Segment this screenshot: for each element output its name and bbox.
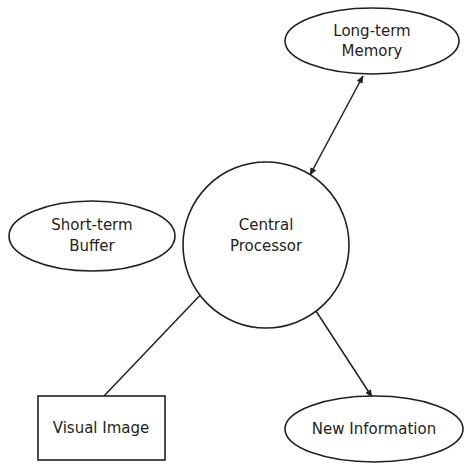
edge-processor-newinfo	[316, 311, 372, 397]
long-term-memory-ellipse	[285, 8, 459, 74]
diagram-canvas: Long-term Memory Short-term Buffer Centr…	[0, 0, 465, 473]
edge-processor-longterm	[310, 76, 363, 175]
long-term-memory-label-2: Memory	[341, 42, 402, 60]
node-short-term-buffer: Short-term Buffer	[9, 201, 175, 271]
central-processor-label-2: Processor	[230, 237, 303, 255]
node-long-term-memory: Long-term Memory	[285, 8, 459, 74]
node-visual-image: Visual Image	[38, 396, 165, 460]
new-information-label: New Information	[312, 420, 436, 438]
long-term-memory-label-1: Long-term	[333, 22, 410, 40]
node-central-processor: Central Processor	[183, 162, 349, 328]
short-term-buffer-label-2: Buffer	[69, 237, 115, 255]
central-processor-label-1: Central	[239, 216, 294, 234]
short-term-buffer-label-1: Short-term	[51, 216, 132, 234]
short-term-buffer-ellipse	[9, 201, 175, 271]
edge-visual-processor	[104, 289, 206, 396]
visual-image-label: Visual Image	[53, 419, 150, 437]
node-new-information: New Information	[285, 396, 463, 462]
